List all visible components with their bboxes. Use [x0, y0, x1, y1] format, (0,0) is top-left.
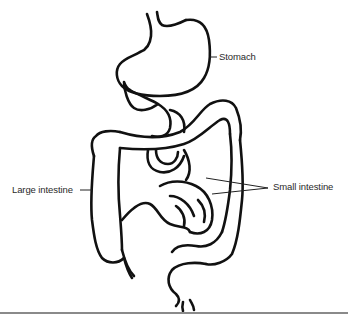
leader-lines	[0, 0, 348, 318]
small-intestine-leader-line	[212, 188, 268, 194]
bottom-divider-rule	[0, 312, 348, 314]
digestive-system-diagram: Stomach Large intestine Small intestine	[0, 0, 348, 318]
label-stomach: Stomach	[219, 51, 256, 62]
small-intestine-leader-line	[206, 178, 268, 188]
label-small-intestine: Small intestine	[273, 181, 333, 192]
label-large-intestine: Large intestine	[12, 184, 73, 195]
